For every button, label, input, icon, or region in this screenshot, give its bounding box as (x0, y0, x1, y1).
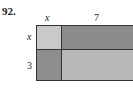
cell-x-by-7 (62, 26, 133, 50)
column-label-7: 7 (94, 12, 99, 23)
cell-3-by-7 (62, 50, 133, 80)
cell-3-by-x (37, 50, 62, 80)
column-label-x: x (45, 12, 49, 23)
cell-x-by-x (37, 26, 62, 50)
problem-number: 92. (2, 5, 16, 17)
row-label-x: x (27, 31, 31, 42)
row-label-3: 3 (27, 60, 32, 71)
area-model-rectangle (36, 25, 133, 81)
